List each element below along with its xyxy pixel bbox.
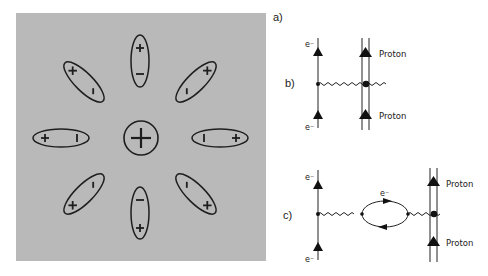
proton-vertex [363,81,370,88]
loop-arrow-bottom [378,224,387,230]
electron-arrow-bottom [313,110,323,119]
photon-wavy-line [318,83,386,86]
electron-arrow-top [313,180,323,189]
feynman-panel: a) b) e⁻ e⁻ Proton Proton c) [273,11,473,264]
proton-arrow-bottom [427,236,440,246]
proton-label-bottom: Proton [446,238,473,248]
label-a: a) [273,11,283,23]
vacuum-polarization-loop [362,201,408,227]
electron-label-bottom: e⁻ [305,123,314,132]
diagram-c: c) e⁻ e⁻ e⁻ Proton [283,168,473,264]
loop-vertex-left [360,212,364,216]
electron-label-top: e⁻ [305,173,314,182]
proton-arrow-top [359,47,372,57]
photon-wavy-line-left [318,213,354,216]
electron-label-top: e⁻ [305,40,314,49]
vacuum-polarization-figure: a) b) e⁻ e⁻ Proton Proton c) [0,0,488,276]
label-c: c) [283,209,292,221]
proton-label-top: Proton [446,179,473,189]
electron-arrow-top [313,47,323,56]
loop-electron-label: e⁻ [380,189,389,198]
proton-arrow-top [427,176,440,186]
diagram-b: b) e⁻ e⁻ Proton Proton [285,38,406,132]
proton-arrow-bottom [359,109,372,119]
proton-label-top: Proton [379,49,406,59]
electron-arrow-bottom [313,242,323,251]
label-b: b) [285,77,295,89]
screening-panel [16,13,266,261]
proton-vertex [431,211,438,218]
proton-label-bottom: Proton [379,111,406,121]
electron-label-bottom: e⁻ [305,255,314,264]
loop-arrow-top [383,198,392,204]
